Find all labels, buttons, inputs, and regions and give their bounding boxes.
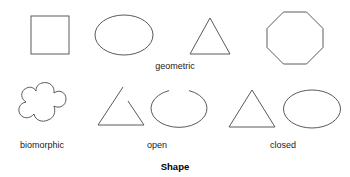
open-triangle-shape — [94, 83, 148, 129]
closed-ellipse-shape — [280, 86, 344, 132]
open-ellipse-shape — [148, 86, 210, 132]
triangle-shape — [186, 14, 234, 58]
octagon-shape — [263, 8, 327, 68]
biomorphic-blob-shape — [16, 79, 70, 133]
biomorphic-label: biomorphic — [2, 140, 82, 151]
open-label: open — [127, 140, 187, 151]
geometric-label: geometric — [135, 61, 215, 72]
figure-title: Shape — [135, 161, 215, 172]
closed-triangle-shape — [225, 86, 279, 132]
shape-diagram: geometric biomorphic open closed Shape — [0, 0, 350, 177]
closed-label: closed — [253, 140, 313, 151]
ellipse-shape — [92, 11, 156, 59]
square-shape — [28, 13, 72, 57]
